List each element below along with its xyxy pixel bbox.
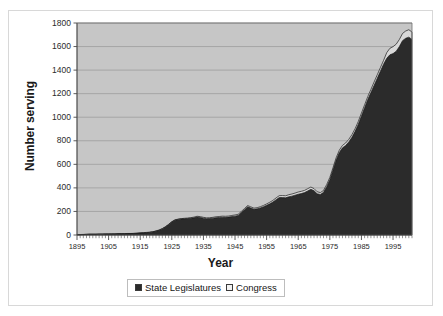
y-axis-tick-label: 400 — [37, 182, 71, 192]
x-axis-tick-label: 1985 — [344, 242, 378, 251]
y-axis-tick-label: 1200 — [37, 88, 71, 98]
x-axis-tick-label: 1925 — [155, 242, 189, 251]
chart-frame: Number serving Year 02004006008001000120… — [8, 10, 433, 306]
y-axis-tick-label: 1600 — [37, 41, 71, 51]
legend-swatch-icon — [226, 284, 233, 291]
x-axis-tick-label: 1895 — [60, 242, 94, 251]
x-axis-tick-label: 1965 — [281, 242, 315, 251]
x-axis-tick-label: 1945 — [218, 242, 252, 251]
legend-label: Congress — [236, 282, 277, 293]
x-axis-tick-label: 1935 — [186, 242, 220, 251]
chart-legend: State LegislaturesCongress — [127, 279, 285, 297]
y-axis-tick-label: 1000 — [37, 112, 71, 122]
legend-item: State Legislatures — [135, 282, 221, 293]
x-axis-tick-label: 1915 — [123, 242, 157, 251]
x-axis-tick-label: 1955 — [250, 242, 284, 251]
legend-swatch-icon — [135, 284, 142, 291]
y-axis-tick-label: 1400 — [37, 65, 71, 75]
y-axis-tick-label: 1800 — [37, 18, 71, 28]
x-axis-tick-label: 1975 — [313, 242, 347, 251]
y-axis-tick-label: 0 — [37, 230, 71, 240]
y-axis-tick-label: 600 — [37, 159, 71, 169]
legend-item: Congress — [226, 282, 277, 293]
y-axis-title: Number serving — [23, 61, 37, 191]
x-axis-title: Year — [9, 256, 432, 270]
y-axis-tick-label: 800 — [37, 135, 71, 145]
y-axis-tick-label: 200 — [37, 206, 71, 216]
x-axis-tick-label: 1995 — [376, 242, 410, 251]
x-axis-tick-label: 1905 — [92, 242, 126, 251]
legend-label: State Legislatures — [145, 282, 221, 293]
